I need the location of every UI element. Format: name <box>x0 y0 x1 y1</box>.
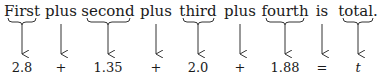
word-second: second <box>81 2 134 20</box>
value-total-variable: t <box>355 60 360 76</box>
value-first: 2.8 <box>12 60 33 76</box>
word-third: third <box>179 2 216 20</box>
word-is: is <box>316 2 329 20</box>
value-third: 2.0 <box>188 60 209 76</box>
word-plus-3: plus <box>224 2 256 20</box>
operator-plus-3: + <box>235 60 246 76</box>
word-plus-2: plus <box>140 2 172 20</box>
operator-plus-1: + <box>56 60 67 76</box>
word-plus-1: plus <box>45 2 77 20</box>
operator-equals: = <box>317 60 328 76</box>
word-fourth: fourth <box>261 2 308 20</box>
value-fourth: 1.88 <box>271 60 300 76</box>
word-first: First <box>4 2 40 20</box>
word-total: total. <box>338 2 378 20</box>
value-second: 1.35 <box>94 60 123 76</box>
operator-plus-2: + <box>151 60 162 76</box>
